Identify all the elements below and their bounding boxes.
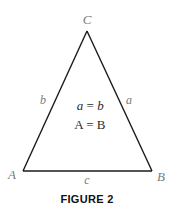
figure-caption: FIGURE 2	[60, 193, 113, 205]
side-label-c: c	[84, 173, 90, 187]
side-label-b: b	[40, 93, 46, 107]
equation-angles-equal: A = B	[59, 117, 115, 132]
vertex-label-a: A	[7, 167, 16, 182]
side-label-a: a	[126, 93, 132, 107]
triangle-figure: C A B b a c a = b A = B FIGURE 2	[0, 0, 171, 208]
equation-sides-operator: =	[83, 98, 97, 113]
equation-sides-right: b	[97, 98, 104, 113]
vertex-label-c: C	[83, 12, 92, 27]
vertex-label-b: B	[157, 169, 165, 184]
equation-angles-right: B	[97, 117, 106, 132]
equation-sides-equal: a = b	[61, 98, 114, 113]
equation-angles-operator: =	[83, 117, 97, 132]
